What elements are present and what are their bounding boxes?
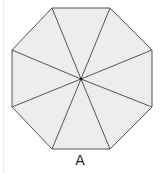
center-point — [80, 78, 83, 81]
octagon-diagram — [0, 0, 160, 173]
figure-label: A — [0, 152, 160, 168]
